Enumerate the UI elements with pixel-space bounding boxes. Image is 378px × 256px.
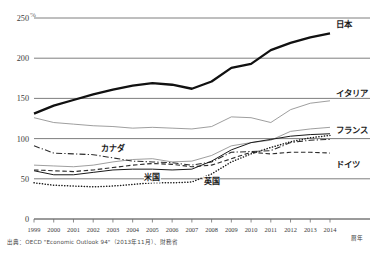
series-line-5 — [34, 134, 330, 175]
x-tick-label: 2007 — [185, 226, 199, 233]
x-tick-label: 2000 — [47, 226, 60, 233]
x-tick-label: 2004 — [126, 226, 140, 233]
x-tick-label: 2011 — [265, 226, 278, 233]
series-line-2 — [34, 127, 330, 166]
y-tick-label: 200 — [17, 54, 29, 63]
y-axis-tick-labels: 050100150200250 — [17, 14, 29, 224]
x-tick-label: 2009 — [225, 226, 238, 233]
source-caption: 出典：OECD "Economic Outlook 94"（2013年11月）、… — [7, 238, 178, 246]
x-axis-tick-labels: 1999200020012002200320042005200620072008… — [28, 226, 338, 233]
series-lines — [34, 33, 330, 187]
series-label-2: フランス — [336, 125, 368, 135]
x-tick-label: 2005 — [146, 226, 159, 233]
series-label-4: ドイツ — [336, 159, 360, 169]
series-label-5: 米国 — [143, 172, 160, 182]
y-tick-label: 150 — [17, 94, 29, 103]
series-line-0 — [34, 33, 330, 113]
y-tick-label: 50 — [21, 175, 29, 184]
x-tick-label: 2014 — [324, 226, 338, 233]
y-tick-label: 100 — [17, 135, 29, 144]
x-tick-label: 1999 — [28, 226, 41, 233]
series-label-1: イタリア — [336, 88, 369, 98]
y-tick-label: 250 — [17, 14, 29, 23]
x-axis-unit-label: 暦年 — [351, 234, 363, 242]
series-line-1 — [34, 101, 330, 129]
x-axis — [34, 219, 370, 223]
x-tick-label: 2012 — [284, 226, 297, 233]
x-tick-label: 2002 — [87, 226, 100, 233]
debt-to-gdp-line-chart: 050100150200250 199920002001200220032004… — [0, 0, 378, 256]
y-tick-label: 0 — [25, 215, 29, 224]
x-tick-label: 2001 — [67, 226, 80, 233]
y-axis-unit-label: % — [30, 11, 36, 19]
gridlines — [34, 18, 370, 219]
x-tick-label: 2013 — [304, 226, 317, 233]
x-tick-label: 2008 — [205, 226, 218, 233]
series-label-0: 日本 — [336, 19, 353, 29]
chart-container: 050100150200250 199920002001200220032004… — [0, 0, 378, 256]
x-tick-label: 2010 — [245, 226, 258, 233]
x-tick-label: 2006 — [166, 226, 179, 233]
series-label-3: カナダ — [101, 143, 125, 153]
x-tick-label: 2003 — [107, 226, 120, 233]
series-label-6: 英国 — [203, 176, 220, 186]
